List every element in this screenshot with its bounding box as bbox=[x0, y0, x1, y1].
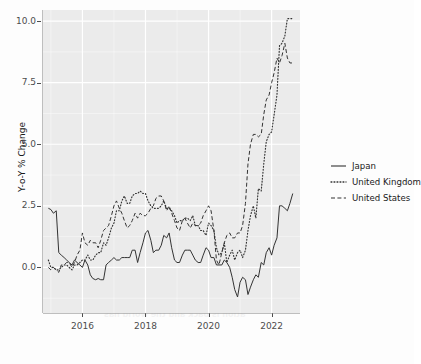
legend-key-solid-line-icon bbox=[330, 160, 347, 172]
legend-item-united-kingdom[interactable]: United Kingdom bbox=[330, 174, 414, 190]
y-tick-label: 0.0 bbox=[6, 263, 36, 272]
legend-item-united-states[interactable]: United States bbox=[330, 190, 414, 206]
legend-key-dotted-line-icon bbox=[330, 176, 347, 188]
y-axis-label: Y-o-Y % Change bbox=[17, 97, 27, 217]
series-line-united-states bbox=[48, 43, 292, 272]
x-tick-label: 2016 bbox=[62, 322, 102, 331]
y-tick-label: 5.0 bbox=[6, 140, 36, 149]
x-axis-line bbox=[43, 313, 300, 314]
x-tick-label: 2020 bbox=[189, 322, 229, 331]
y-tick-mark bbox=[37, 206, 41, 207]
legend-label: Japan bbox=[352, 162, 376, 171]
y-tick-mark bbox=[37, 21, 41, 22]
data-series-layer bbox=[48, 19, 292, 297]
y-tick-mark bbox=[37, 267, 41, 268]
y-tick-mark bbox=[37, 83, 41, 84]
x-tick-label: 2018 bbox=[125, 322, 165, 331]
gridlines-major bbox=[43, 10, 300, 313]
legend-label: United States bbox=[352, 194, 410, 203]
y-tick-mark bbox=[37, 144, 41, 145]
x-tick-label: 2022 bbox=[252, 322, 292, 331]
plot-area bbox=[43, 10, 300, 313]
chart-legend: JapanUnited KingdomUnited States bbox=[330, 158, 414, 206]
y-axis-line bbox=[42, 10, 43, 313]
y-tick-label: 2.5 bbox=[6, 201, 36, 210]
y-tick-label: 10.0 bbox=[6, 17, 36, 26]
plot-panel bbox=[43, 10, 300, 313]
y-axis: Y-o-Y % Change 0.02.55.07.510.0 bbox=[0, 0, 36, 364]
legend-label: United Kingdom bbox=[352, 178, 421, 187]
y-tick-label: 7.5 bbox=[6, 78, 36, 87]
legend-key-dashed-line-icon bbox=[330, 192, 347, 204]
legend-item-japan[interactable]: Japan bbox=[330, 158, 414, 174]
